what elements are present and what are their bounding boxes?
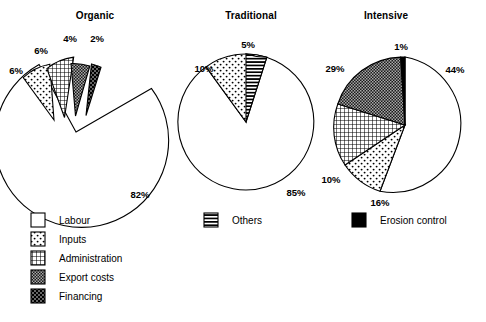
organic-label-labour: 82%: [130, 189, 150, 200]
legend-item-financing[interactable]: Financing: [31, 289, 102, 303]
legend-item-inputs[interactable]: Inputs: [31, 232, 86, 246]
legend-label-labour: Labour: [59, 215, 91, 226]
legend-item-administration[interactable]: Administration: [31, 251, 122, 265]
organic-label-inputs: 6%: [9, 65, 23, 76]
traditional-label-labour: 85%: [286, 187, 306, 198]
legend-swatch-administration-icon: [31, 251, 45, 265]
legend-item-labour[interactable]: Labour: [31, 213, 91, 227]
organic-label-financing: 2%: [90, 33, 104, 44]
pie-chart-figure: Organic 6% 6% 4% 2% 82% Traditional 10% …: [0, 0, 486, 322]
legend-swatch-export-costs-icon: [31, 270, 45, 284]
legend-swatch-labour-icon: [31, 213, 45, 227]
organic-label-export-costs: 4%: [63, 33, 77, 44]
legend-label-administration: Administration: [59, 253, 122, 264]
traditional-title: Traditional: [225, 10, 277, 21]
legend-swatch-others-icon: [204, 213, 218, 227]
intensive-title: Intensive: [364, 10, 409, 21]
intensive-label-inputs: 16%: [370, 197, 390, 208]
intensive-label-erosion-control: 1%: [394, 41, 408, 52]
traditional-label-others: 5%: [241, 39, 255, 50]
legend-label-export-costs: Export costs: [59, 272, 114, 283]
organic-title: Organic: [76, 10, 115, 21]
organic-label-administration: 6%: [34, 45, 48, 56]
intensive-label-export-costs: 29%: [325, 63, 345, 74]
legend-swatch-inputs-icon: [31, 232, 45, 246]
intensive-label-administration: 10%: [321, 174, 341, 185]
traditional-label-inputs: 10%: [194, 63, 214, 74]
legend-swatch-erosion-control-icon: [352, 213, 366, 227]
legend-swatch-financing-icon: [31, 289, 45, 303]
legend-label-inputs: Inputs: [59, 234, 86, 245]
legend-label-financing: Financing: [59, 291, 102, 302]
intensive-label-labour: 44%: [445, 64, 465, 75]
legend-item-export-costs[interactable]: Export costs: [31, 270, 114, 284]
legend-item-erosion-control[interactable]: Erosion control: [352, 213, 447, 227]
legend-label-others: Others: [232, 215, 262, 226]
legend-item-others[interactable]: Others: [204, 213, 262, 227]
legend-label-erosion-control: Erosion control: [380, 215, 447, 226]
